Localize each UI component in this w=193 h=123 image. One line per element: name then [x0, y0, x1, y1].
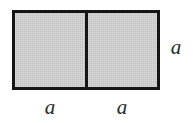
right-square	[88, 13, 158, 87]
dimension-label-bottom-left: a	[40, 97, 60, 118]
dimension-label-right-side: a	[166, 37, 186, 58]
left-square	[15, 13, 85, 87]
two-squares-rectangle	[12, 10, 160, 90]
geometry-figure: a a a	[0, 0, 193, 123]
dimension-label-bottom-right: a	[112, 97, 132, 118]
